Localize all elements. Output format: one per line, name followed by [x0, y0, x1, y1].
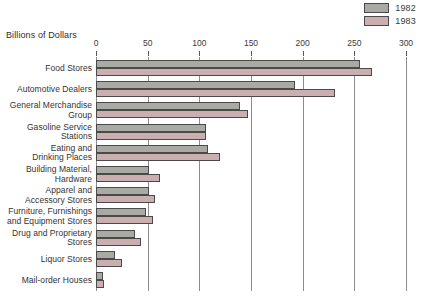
x-axis-tick-mark: [96, 51, 97, 56]
bar-1982: [96, 102, 240, 110]
category-label: Mail-order Houses: [0, 276, 92, 286]
x-axis-tick-label: 200: [296, 38, 310, 48]
x-axis-tick-mark: [406, 51, 407, 56]
x-axis-tick-label: 300: [399, 38, 413, 48]
bar-1983: [96, 238, 141, 246]
x-axis-tick-label: 100: [192, 38, 206, 48]
bar-1982: [96, 166, 149, 174]
bar-1983: [96, 110, 248, 118]
category-label: Drug and Proprietary Stores: [0, 229, 92, 248]
bar-1982: [96, 251, 115, 259]
bar-1982: [96, 124, 206, 132]
x-axis-tick-mark: [199, 51, 200, 56]
x-axis-tick-mark: [148, 51, 149, 56]
gridline: [406, 57, 407, 291]
bar-1983: [96, 216, 153, 224]
bar-1983: [96, 174, 160, 182]
bar-1982: [96, 230, 135, 238]
plot-area: 050100150200250300Food StoresAutomotive …: [0, 0, 423, 297]
bar-1983: [96, 259, 122, 267]
category-label: Gasoline Service Stations: [0, 123, 92, 142]
bar-chart: 19821983 Billions of Dollars 05010015020…: [0, 0, 423, 297]
bar-1982: [96, 145, 208, 153]
bar-1983: [96, 89, 335, 97]
bar-1983: [96, 132, 206, 140]
category-label: Furniture, Furnishings and Equipment Sto…: [0, 207, 92, 226]
x-axis-tick-label: 0: [94, 38, 99, 48]
category-label: Food Stores: [0, 64, 92, 74]
bar-1982: [96, 187, 149, 195]
x-axis-tick-mark: [303, 51, 304, 56]
category-label: Liquor Stores: [0, 255, 92, 265]
bar-1982: [96, 60, 360, 68]
x-axis-tick-mark: [251, 51, 252, 56]
x-axis-tick-label: 150: [244, 38, 258, 48]
x-axis-tick-label: 50: [143, 38, 152, 48]
category-label: Eating and Drinking Places: [0, 144, 92, 163]
x-axis-tick-label: 250: [347, 38, 361, 48]
bar-1983: [96, 280, 104, 288]
bar-1983: [96, 153, 220, 161]
bar-1983: [96, 195, 155, 203]
bar-1982: [96, 81, 295, 89]
gridline: [354, 57, 355, 291]
category-label: Apparel and Accessory Stores: [0, 186, 92, 205]
category-label: Building Material, Hardware: [0, 165, 92, 184]
bar-1982: [96, 208, 146, 216]
x-axis-tick-mark: [354, 51, 355, 56]
bar-1983: [96, 68, 372, 76]
category-label: Automotive Dealers: [0, 85, 92, 95]
category-label: General Merchandise Group: [0, 101, 92, 120]
bar-1982: [96, 272, 103, 280]
